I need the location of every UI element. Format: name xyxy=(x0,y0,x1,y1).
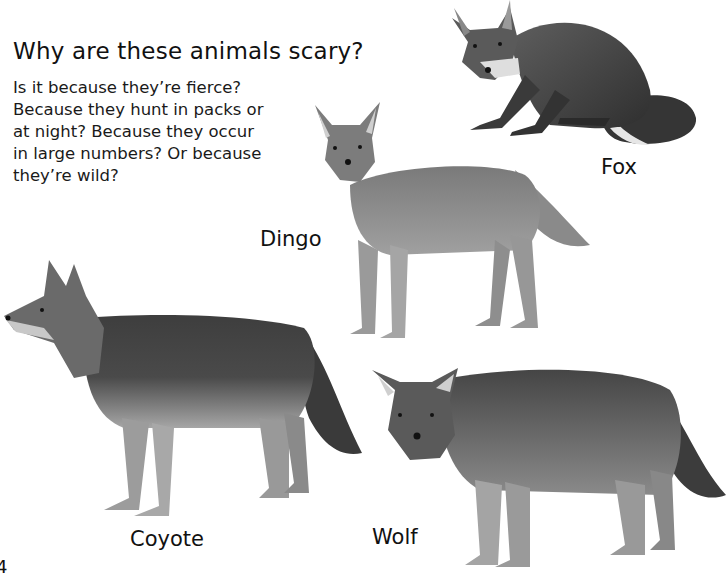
page-title: Why are these animals scary? xyxy=(13,38,364,64)
intro-line: they’re wild? xyxy=(13,165,283,187)
intro-paragraph: Is it because they’re fierce? Because th… xyxy=(13,77,283,187)
page-number: 4 xyxy=(0,556,7,577)
label-wolf: Wolf xyxy=(372,525,418,549)
intro-line: in large numbers? Or because xyxy=(13,143,283,165)
label-fox: Fox xyxy=(601,155,637,179)
intro-line: at night? Because they occur xyxy=(13,121,283,143)
wolf-illustration xyxy=(370,360,728,568)
intro-line: Is it because they’re fierce? xyxy=(13,77,283,99)
label-coyote: Coyote xyxy=(130,527,204,551)
label-dingo: Dingo xyxy=(260,227,322,251)
coyote-illustration xyxy=(4,258,366,520)
intro-line: Because they hunt in packs or xyxy=(13,99,283,121)
